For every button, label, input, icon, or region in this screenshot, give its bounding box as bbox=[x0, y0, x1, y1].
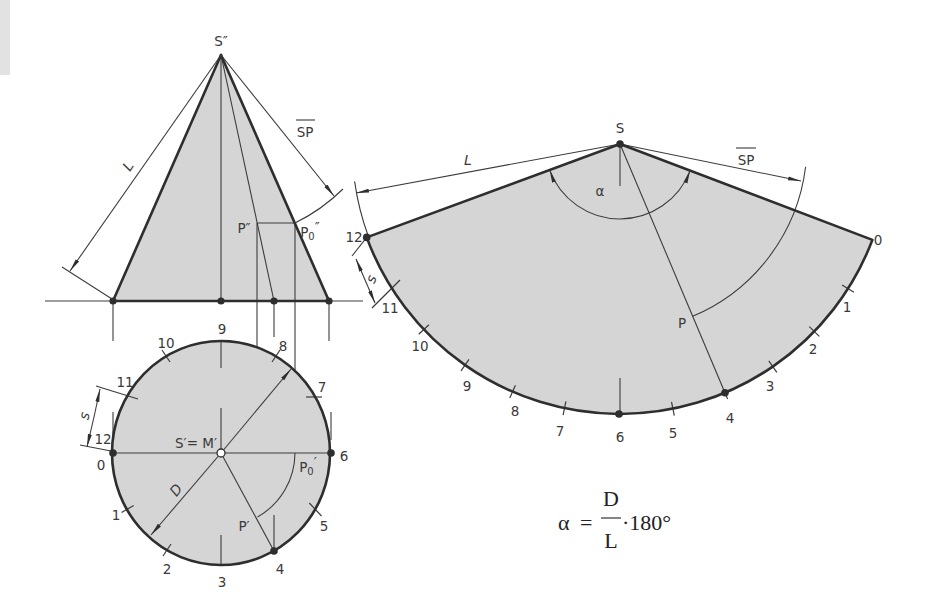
division-label-9: 9 bbox=[218, 321, 227, 337]
point-p0-label: P0″ bbox=[300, 219, 320, 242]
circle-point-0 bbox=[109, 449, 117, 457]
division-label-1: 1 bbox=[112, 507, 121, 523]
division-label-6: 6 bbox=[616, 429, 625, 445]
point-p-label: P′ bbox=[238, 518, 249, 534]
sp-label: SP bbox=[297, 124, 314, 140]
slant-length-extension-line bbox=[62, 267, 112, 299]
sp-label: SP bbox=[738, 152, 755, 168]
arc-length-label: s bbox=[75, 411, 92, 421]
point-p-label: P″ bbox=[237, 220, 250, 236]
formula-denominator: L bbox=[604, 528, 617, 553]
base-point-0 bbox=[109, 297, 116, 304]
slant-length-label: L bbox=[119, 158, 137, 173]
division-label-10: 10 bbox=[411, 338, 428, 354]
angle-alpha-label: α bbox=[596, 183, 605, 199]
division-label-7: 7 bbox=[556, 423, 565, 439]
formula-numerator: D bbox=[603, 486, 619, 511]
circle-point-6 bbox=[327, 449, 335, 457]
arc-length-dimension-line bbox=[94, 389, 100, 417]
p0-prime: ′ bbox=[314, 454, 317, 470]
division-label-5: 5 bbox=[669, 425, 678, 441]
division-label-5: 5 bbox=[320, 518, 329, 534]
division-label-4: 4 bbox=[276, 561, 285, 577]
sector-point-4 bbox=[721, 389, 729, 397]
sector-point-6 bbox=[615, 410, 623, 418]
division-label-0: 0 bbox=[874, 232, 883, 248]
formula-equals: = bbox=[580, 510, 592, 535]
division-label-2: 2 bbox=[163, 561, 172, 577]
division-label-3: 3 bbox=[766, 378, 775, 394]
p0-prime: ″ bbox=[315, 219, 320, 235]
division-label-7: 7 bbox=[318, 379, 327, 395]
top-view: 9 10 8 11 7 12 0 6 1 5 2 4 3 S′= M′ D s … bbox=[75, 321, 348, 590]
base-point-6 bbox=[325, 297, 332, 304]
sp-rotation-arc bbox=[295, 189, 343, 223]
division-label-12: 12 bbox=[345, 229, 362, 245]
division-label-4: 4 bbox=[726, 410, 735, 426]
division-label-1: 1 bbox=[843, 299, 852, 315]
p0-main: P bbox=[300, 224, 308, 240]
division-label-11: 11 bbox=[116, 374, 133, 390]
point-p-label: P bbox=[678, 315, 686, 331]
margin-patch bbox=[0, 0, 10, 75]
sector-angle-formula: α = D L ·180° bbox=[558, 486, 671, 553]
formula-rest: ·180° bbox=[622, 510, 671, 535]
circle-point-4 bbox=[270, 547, 278, 555]
apex-label: S″ bbox=[214, 33, 228, 49]
division-label-3: 3 bbox=[218, 574, 227, 590]
division-label-10: 10 bbox=[157, 335, 174, 351]
apex-label: S bbox=[616, 120, 625, 136]
division-label-8: 8 bbox=[279, 338, 288, 354]
division-label-9: 9 bbox=[463, 378, 472, 394]
cone-development-drawing: S″ L SP P″ P0″ bbox=[0, 0, 925, 608]
base-point-center bbox=[217, 297, 224, 304]
base-point-4 bbox=[270, 297, 277, 304]
sector-apex-point bbox=[616, 140, 624, 148]
division-label-11: 11 bbox=[381, 300, 398, 316]
center-point-marker bbox=[217, 449, 225, 457]
center-label: S′= M′ bbox=[175, 435, 217, 451]
division-label-2: 2 bbox=[809, 341, 818, 357]
slant-length-label: L bbox=[464, 152, 472, 168]
formula-lhs: α bbox=[558, 510, 570, 535]
division-label-6: 6 bbox=[340, 448, 349, 464]
development-view: S L SP α P s 12 11 10 9 8 7 6 5 4 3 2 1 … bbox=[345, 120, 882, 445]
sector-point-12 bbox=[363, 234, 371, 242]
division-label-0: 0 bbox=[97, 457, 106, 473]
division-label-8: 8 bbox=[511, 403, 520, 419]
division-label-12: 12 bbox=[94, 431, 111, 447]
p0-main: P bbox=[299, 459, 307, 475]
arc-length-label: s bbox=[362, 273, 380, 286]
